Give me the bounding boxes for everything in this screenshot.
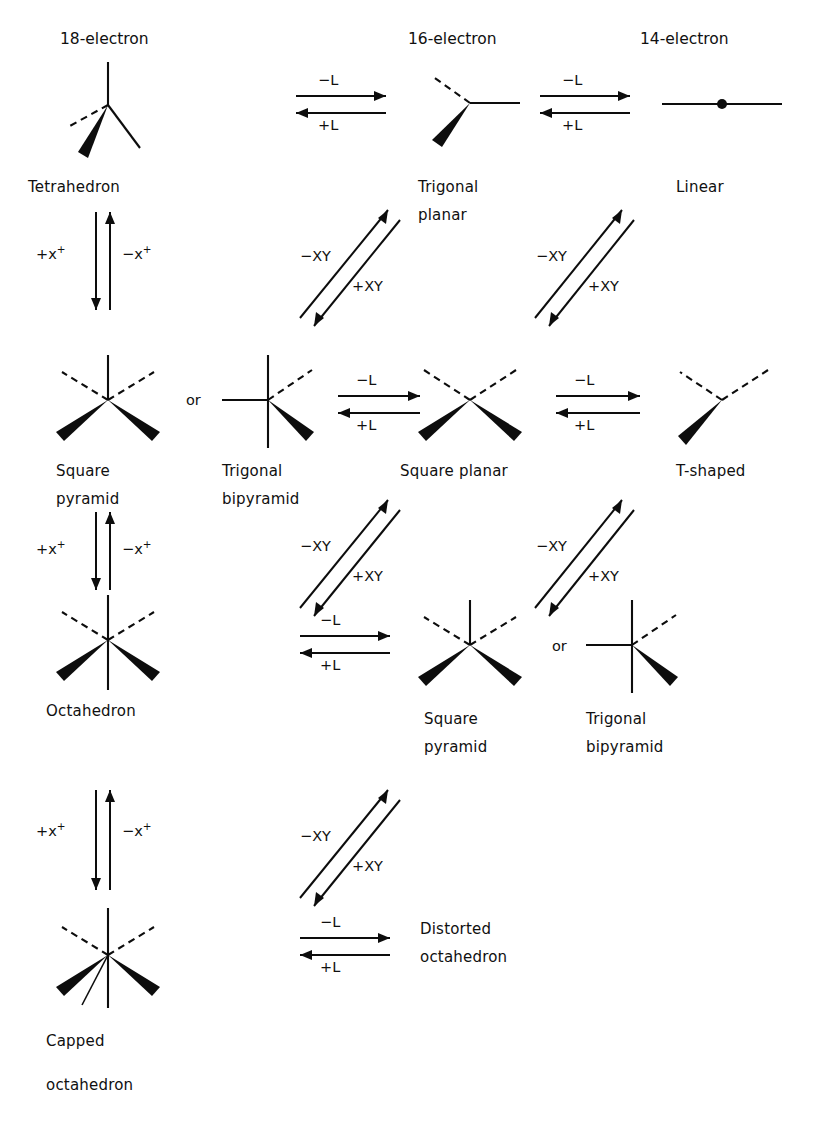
label-trigonal-bipyramid-1-line2: bipyramid (222, 490, 300, 508)
label-capped-octahedron-line1: Capped (46, 1032, 105, 1050)
label-square-pyramid-2-line1: Square (424, 710, 478, 728)
label-t-shaped: T-shaped (676, 462, 746, 480)
square-planar-structure (418, 370, 522, 441)
arrow-label-d4-upper: −XY (536, 538, 567, 554)
trigonal-bipyramid-structure-1 (222, 355, 314, 448)
equilibrium-arrow-d3 (300, 500, 400, 616)
equilibrium-arrow-v3 (91, 790, 115, 890)
arrow-label-v2-right-sup: + (143, 538, 152, 550)
arrow-label-v1-right-base: −x (122, 246, 143, 262)
arrow-label-v2-right: −x+ (122, 538, 151, 557)
arrow-label-v3-right: −x+ (122, 820, 151, 839)
arrow-label-v1-left: +x+ (36, 243, 65, 262)
label-trigonal-planar-line2: planar (418, 206, 467, 224)
label-or-1: or (186, 392, 201, 408)
equilibrium-arrow-d2 (535, 210, 634, 326)
equilibrium-arrow-v2 (91, 512, 115, 590)
equilibrium-arrow-h2 (540, 91, 630, 118)
label-capped-octahedron-line2: octahedron (46, 1076, 133, 1094)
arrow-label-v3-right-base: −x (122, 823, 143, 839)
arrow-label-v3-right-sup: + (143, 820, 152, 832)
arrow-label-h1-top: −L (318, 72, 338, 88)
equilibrium-arrow-v1 (91, 212, 115, 310)
arrow-label-h4-top: −L (574, 372, 594, 388)
arrow-label-v2-right-base: −x (122, 541, 143, 557)
label-square-planar: Square planar (400, 462, 508, 480)
arrow-label-h5-bottom: +L (320, 657, 340, 673)
arrow-label-h6-top: −L (320, 914, 340, 930)
equilibrium-arrow-d1 (300, 210, 400, 326)
arrow-label-v2-left-base: +x (36, 541, 57, 557)
linear-structure (662, 99, 782, 109)
arrow-label-v3-left-sup: + (57, 820, 66, 832)
arrow-label-v1-left-sup: + (57, 243, 66, 255)
arrow-label-v1-right-sup: + (143, 243, 152, 255)
arrow-label-h6-bottom: +L (320, 959, 340, 975)
label-distorted-octahedron-line2: octahedron (420, 948, 507, 966)
equilibrium-arrow-h4 (556, 391, 640, 418)
trigonal-planar-structure (432, 76, 520, 147)
arrow-label-d5-upper: −XY (300, 828, 331, 844)
arrow-label-v2-left: +x+ (36, 538, 65, 557)
equilibrium-arrow-h3 (338, 391, 420, 418)
structure-drawings-layer (0, 0, 817, 1126)
octahedron-structure (56, 595, 160, 690)
square-pyramid-structure-1 (56, 355, 160, 441)
arrow-label-h4-bottom: +L (574, 417, 594, 433)
label-or-2: or (552, 638, 567, 654)
arrow-label-d2-upper: −XY (536, 248, 567, 264)
arrow-label-h2-bottom: +L (562, 117, 582, 133)
arrow-label-v1-left-base: +x (36, 246, 57, 262)
arrow-label-h2-top: −L (562, 72, 582, 88)
arrow-label-h5-top: −L (320, 612, 340, 628)
label-square-pyramid-1-line1: Square (56, 462, 110, 480)
arrow-label-v1-right: −x+ (122, 243, 151, 262)
arrow-label-d5-lower: +XY (352, 858, 383, 874)
label-trigonal-bipyramid-2-line2: bipyramid (586, 738, 664, 756)
arrow-label-v3-left-base: +x (36, 823, 57, 839)
equilibrium-arrow-d4 (535, 500, 634, 616)
figure-canvas: 18-electron 16-electron 14-electron (0, 0, 817, 1126)
tetrahedron-structure (68, 62, 140, 158)
arrow-label-v3-left: +x+ (36, 820, 65, 839)
arrow-label-d4-lower: +XY (588, 568, 619, 584)
trigonal-bipyramid-structure-2 (586, 600, 678, 693)
arrow-label-d1-lower: +XY (352, 278, 383, 294)
label-trigonal-bipyramid-2-line1: Trigonal (586, 710, 646, 728)
arrow-label-h3-top: −L (356, 372, 376, 388)
label-tetrahedron: Tetrahedron (28, 178, 120, 196)
label-trigonal-bipyramid-1-line1: Trigonal (222, 462, 282, 480)
label-linear: Linear (676, 178, 724, 196)
equilibrium-arrow-h6 (300, 933, 390, 960)
arrow-label-d2-lower: +XY (588, 278, 619, 294)
capped-octahedron-structure (56, 908, 160, 1008)
label-octahedron: Octahedron (46, 702, 136, 720)
equilibrium-arrow-d5 (300, 790, 400, 906)
label-square-pyramid-2-line2: pyramid (424, 738, 487, 756)
arrow-label-h3-bottom: +L (356, 417, 376, 433)
arrow-label-d3-lower: +XY (352, 568, 383, 584)
t-shaped-structure (678, 370, 768, 445)
square-pyramid-structure-2 (418, 600, 522, 686)
label-trigonal-planar-line1: Trigonal (418, 178, 478, 196)
equilibrium-arrow-h1 (296, 91, 386, 118)
label-square-pyramid-1-line2: pyramid (56, 490, 119, 508)
arrow-label-d1-upper: −XY (300, 248, 331, 264)
label-distorted-octahedron-line1: Distorted (420, 920, 491, 938)
arrow-label-d3-upper: −XY (300, 538, 331, 554)
arrow-label-v2-left-sup: + (57, 538, 66, 550)
equilibrium-arrow-h5 (300, 631, 390, 658)
arrow-label-h1-bottom: +L (318, 117, 338, 133)
